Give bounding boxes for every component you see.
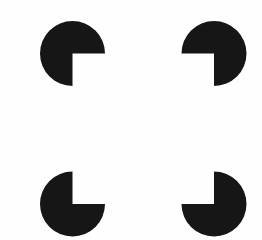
- kanizsa-square-figure: [0, 0, 262, 240]
- figure-canvas: [0, 0, 262, 240]
